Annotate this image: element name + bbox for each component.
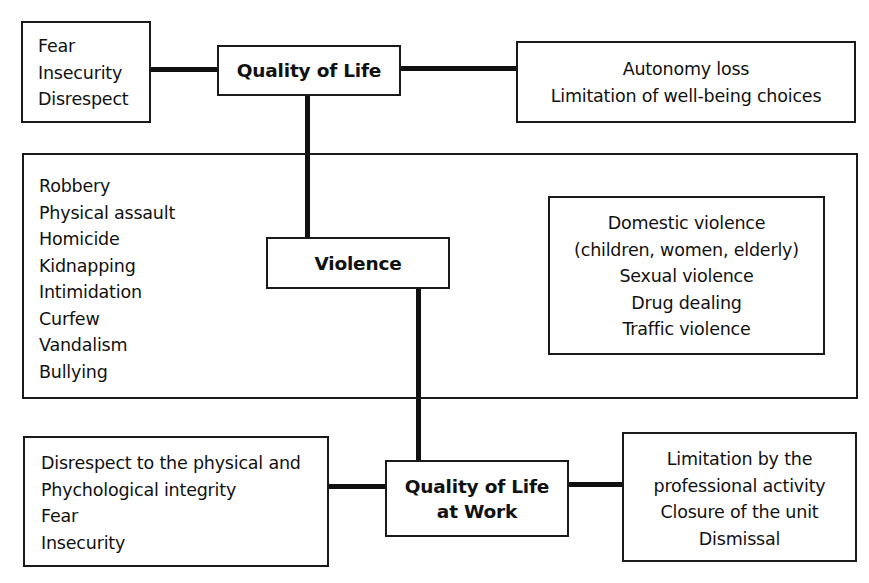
list-item: Limitation by the [624, 446, 855, 473]
list-item: Dismissal [624, 526, 855, 553]
list-item: Disrespect [38, 86, 129, 113]
list-item: Disrespect to the physical and [41, 450, 301, 477]
other-violence-list: Domestic violence (children, women, elde… [550, 210, 823, 343]
other-violence-box: Domestic violence (children, women, elde… [548, 196, 825, 355]
list-item: (children, women, elderly) [550, 237, 823, 264]
quality-of-life-label: Quality of Life [237, 58, 381, 83]
list-item: Robbery [39, 173, 175, 200]
list-item: Insecurity [41, 530, 301, 557]
list-item: Kidnapping [39, 253, 175, 280]
qol-limitations-list: Autonomy loss Limitation of well-being c… [518, 56, 854, 109]
list-item: Fear [38, 33, 129, 60]
connector-fear-to-qol [150, 67, 218, 72]
list-item: Closure of the unit [624, 499, 855, 526]
list-item: Autonomy loss [518, 56, 854, 83]
list-item: Curfew [39, 306, 175, 333]
connector-work-to-limitation [567, 482, 623, 487]
quality-of-life-at-work-node: Quality of Life at Work [385, 460, 569, 537]
list-item: Limitation of well-being choices [518, 83, 854, 110]
quality-of-life-at-work-label-line1: Quality of Life [405, 474, 549, 499]
connector-qol-to-autonomy [399, 66, 517, 71]
list-item: Bullying [39, 359, 175, 386]
list-item: Traffic violence [550, 316, 823, 343]
list-item: Homicide [39, 226, 175, 253]
qol-limitations-box: Autonomy loss Limitation of well-being c… [516, 41, 856, 123]
connector-integrity-to-work [327, 484, 386, 489]
list-item: Intimidation [39, 279, 175, 306]
violence-types-list: Robbery Physical assault Homicide Kidnap… [39, 173, 175, 385]
list-item: Vandalism [39, 332, 175, 359]
list-item: professional activity [624, 473, 855, 500]
work-limitations-list: Limitation by the professional activity … [624, 446, 855, 552]
violence-label: Violence [314, 251, 401, 276]
work-negative-factors-list: Disrespect to the physical and Phycholog… [41, 450, 301, 556]
list-item: Domestic violence [550, 210, 823, 237]
list-item: Fear [41, 503, 301, 530]
violence-node: Violence [266, 237, 450, 289]
qol-negative-factors-box: Fear Insecurity Disrespect [21, 21, 151, 123]
work-negative-factors-box: Disrespect to the physical and Phycholog… [23, 436, 329, 567]
list-item: Sexual violence [550, 263, 823, 290]
list-item: Phychological integrity [41, 477, 301, 504]
quality-of-life-node: Quality of Life [217, 45, 401, 96]
work-limitations-box: Limitation by the professional activity … [622, 432, 857, 562]
list-item: Physical assault [39, 200, 175, 227]
list-item: Drug dealing [550, 290, 823, 317]
qol-negative-factors-list: Fear Insecurity Disrespect [38, 33, 129, 113]
list-item: Insecurity [38, 60, 129, 87]
quality-of-life-at-work-label-line2: at Work [437, 499, 517, 524]
